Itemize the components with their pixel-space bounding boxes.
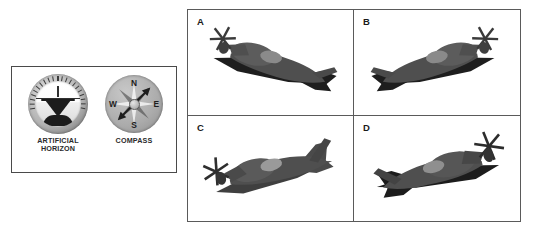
aircraft-silhouette-icon [354,10,520,115]
artificial-horizon-tick [79,94,84,97]
compass-west-label: W [109,100,117,108]
compass-body: N E S W [105,75,163,133]
compass-east-label: E [153,100,159,108]
artificial-horizon-dial-icon [28,74,88,134]
artificial-horizon-tick [81,98,86,100]
artificial-horizon-ground-dome [43,115,73,126]
artificial-horizon-face [35,81,81,127]
artificial-horizon-label-line2: HORIZON [41,144,75,153]
compass-label: COMPASS [100,137,168,145]
artificial-horizon-wing-bar [41,99,75,101]
compass-instrument: N E S W COMPASS [100,74,168,145]
aircraft-orientation-options: A B [187,9,521,222]
flight-instrument-panel: ARTIFICIAL HORIZON N E S W COMPASS [11,66,177,173]
compass-south-label: S [131,121,137,129]
compass-north-label: N [131,79,137,87]
option-cell-a[interactable]: A [188,10,354,116]
artificial-horizon-tick [81,107,86,109]
aircraft-silhouette-icon [188,116,353,222]
option-cell-d[interactable]: D [354,116,520,222]
artificial-horizon-instrument: ARTIFICIAL HORIZON [24,74,92,154]
compass-label-line1: COMPASS [116,136,153,145]
aircraft-silhouette-icon [188,10,353,115]
option-letter-c: C [197,123,204,133]
option-letter-a: A [197,17,204,27]
compass-rose-icon: N E S W [104,74,164,134]
aircraft-silhouette-icon [354,116,520,222]
artificial-horizon-label: ARTIFICIAL HORIZON [24,137,92,154]
option-letter-d: D [363,123,370,133]
option-cell-c[interactable]: C [188,116,354,222]
option-letter-b: B [363,17,370,27]
artificial-horizon-tick [81,103,86,104]
compass-hub [129,99,140,110]
artificial-horizon-index-mark [57,86,58,97]
option-cell-b[interactable]: B [354,10,520,116]
